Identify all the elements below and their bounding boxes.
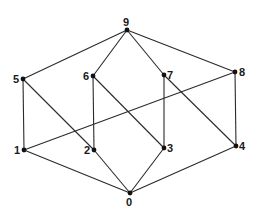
edge-6-3 [93,76,164,148]
edge-5-1 [23,79,24,150]
edge-1-0 [24,150,130,193]
node-8: 8 [233,66,246,78]
vertex-dot [162,146,167,151]
node-7: 7 [162,69,174,81]
vertex-label: 9 [123,16,129,28]
vertex-dot [21,77,26,82]
vertex-label: 2 [84,144,90,156]
edges-group [23,30,236,193]
node-0: 0 [126,191,132,208]
vertex-dot [162,73,167,78]
edge-4-0 [130,146,236,193]
vertex-label: 6 [83,70,89,82]
graph-canvas: 0123456789 [0,0,260,217]
node-9: 9 [123,16,129,32]
vertex-label: 0 [126,196,132,208]
vertex-dot [22,148,27,153]
edge-2-0 [94,150,130,193]
vertex-label: 5 [13,73,19,85]
nodes-group: 0123456789 [13,16,246,208]
vertex-dot [128,191,133,196]
edge-3-0 [130,148,164,193]
edge-7-4 [164,75,236,146]
vertex-label: 4 [239,140,246,152]
edge-9-8 [127,30,235,72]
edge-9-5 [23,30,127,79]
vertex-dot [233,70,238,75]
vertex-dot [234,144,239,149]
vertex-label: 8 [239,66,245,78]
vertex-label: 7 [167,69,173,81]
vertex-dot [125,28,130,33]
edge-5-2 [23,79,94,150]
vertex-label: 1 [14,144,20,156]
edge-9-6 [93,30,127,76]
edge-8-4 [235,72,236,146]
node-3: 3 [162,142,174,154]
node-1: 1 [14,144,26,156]
vertex-dot [91,74,96,79]
vertex-dot [92,148,97,153]
edge-6-2 [93,76,94,150]
vertex-label: 3 [167,142,173,154]
lattice-diagram: 0123456789 [0,0,260,217]
